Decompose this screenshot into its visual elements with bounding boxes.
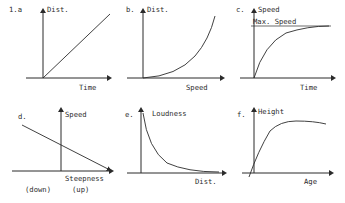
y-axis-label-b: Dist.	[147, 6, 169, 14]
y-axis-label-e: Loudness	[152, 110, 187, 118]
panel-label-f: f.	[237, 111, 246, 119]
data-curve-c	[254, 26, 329, 78]
panel-label-a: 1.a	[9, 6, 22, 14]
graph-panel-f: f. Height Age	[230, 101, 345, 202]
y-axis-label-f: Height	[258, 108, 284, 116]
graph-axes-a	[0, 0, 115, 101]
worksheet-graph-sheet: 1.a Dist. Time b. Dist. Speed c. Speed M…	[0, 0, 345, 203]
x-axis-label-d: Steepness	[65, 175, 104, 183]
data-curve-b	[143, 16, 215, 78]
data-curve-e	[143, 113, 219, 172]
data-curve-f	[249, 121, 326, 177]
x-axis-label-f: Age	[304, 178, 317, 186]
x-axis-label-e: Dist.	[195, 178, 217, 186]
y-axis-label-a: Dist.	[47, 6, 69, 14]
asymptote-label-c: Max. Speed	[253, 18, 296, 26]
panel-label-d: d.	[18, 113, 27, 121]
graph-panel-e: e. Loudness Dist.	[115, 101, 230, 202]
y-axis-label-d: Speed	[65, 111, 87, 119]
panel-label-e: e.	[125, 111, 134, 119]
x-axis-label-c: Time	[300, 84, 317, 92]
graph-panel-b: b. Dist. Speed	[115, 0, 230, 101]
x-axis-note-up-d: (up)	[72, 186, 89, 194]
graph-panel-d: d. Speed Steepness (down) (up)	[0, 101, 115, 202]
panel-label-b: b.	[126, 6, 135, 14]
panel-label-c: c.	[236, 6, 245, 14]
data-curve-a	[43, 14, 110, 78]
graph-panel-a: 1.a Dist. Time	[0, 0, 115, 101]
graph-axes-f	[230, 101, 345, 202]
x-axis-label-a: Time	[79, 84, 96, 92]
graph-axes-c	[230, 0, 345, 101]
x-axis-note-down-d: (down)	[25, 186, 51, 194]
y-axis-label-c: Speed	[258, 6, 280, 14]
x-axis-label-b: Speed	[186, 84, 208, 92]
graph-panel-c: c. Speed Max. Speed Time	[230, 0, 345, 101]
graph-axes-b	[115, 0, 230, 101]
data-curve-d	[22, 125, 108, 169]
